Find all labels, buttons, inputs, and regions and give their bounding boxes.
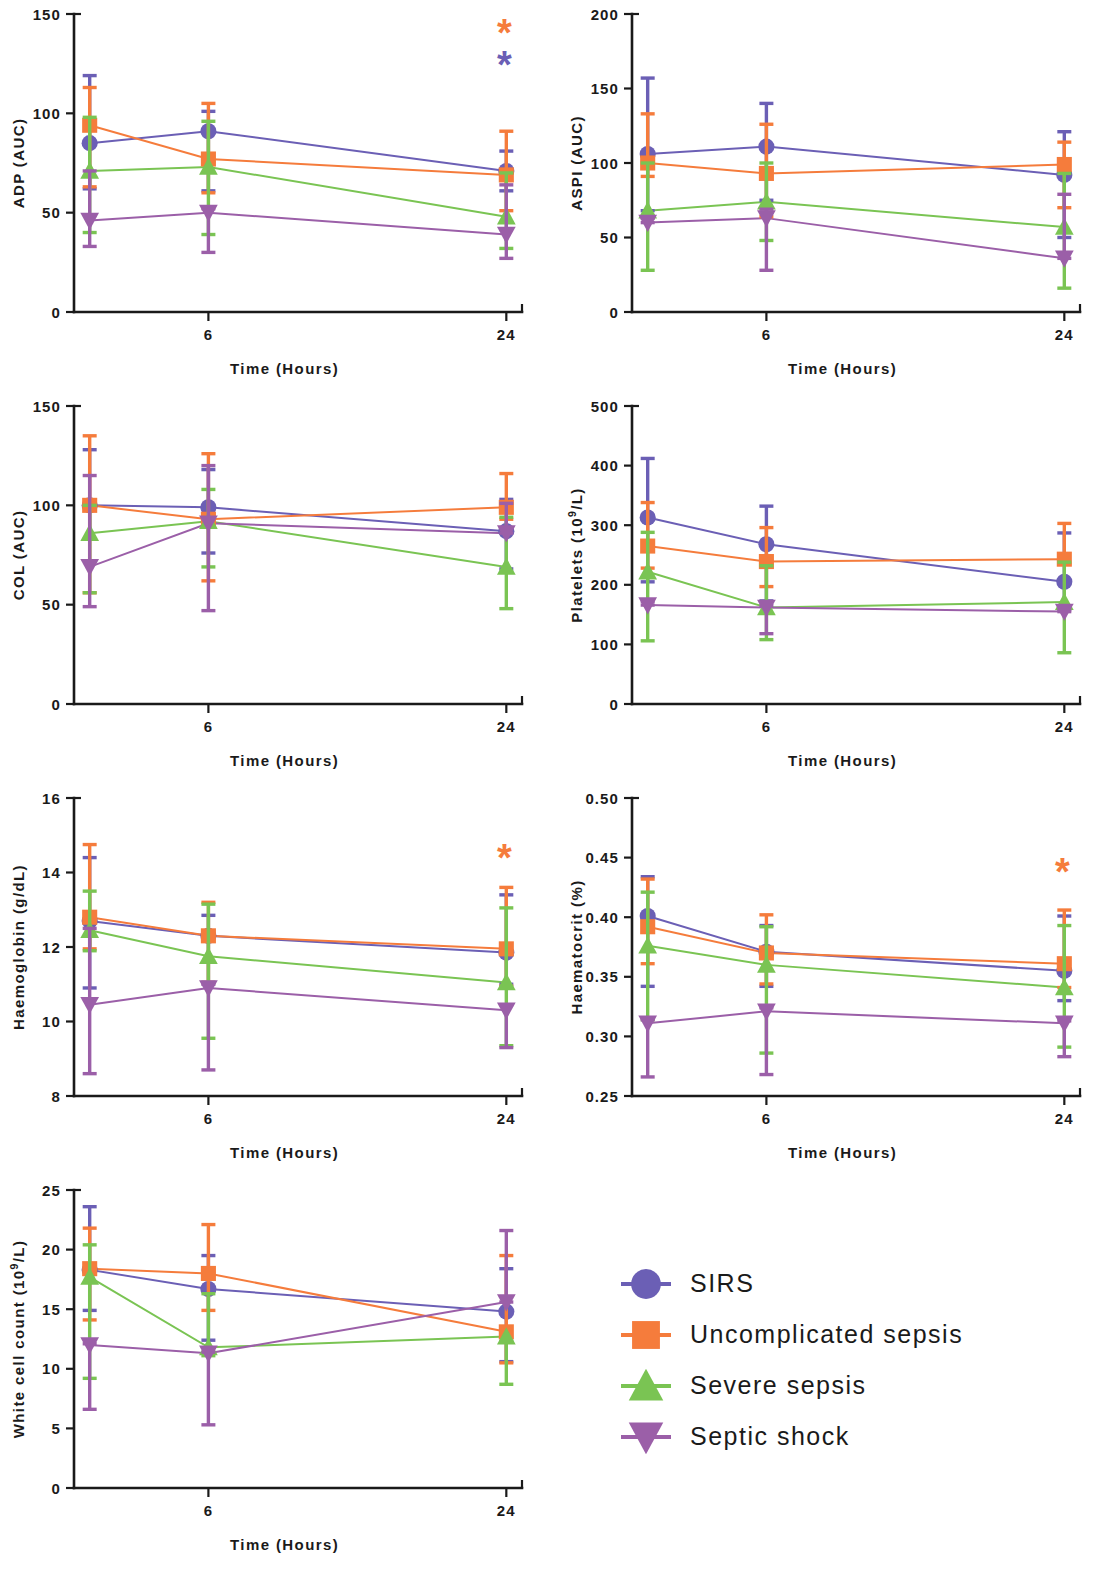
errorbar-marker-group xyxy=(199,466,218,611)
y-tick-label: 200 xyxy=(591,6,619,23)
y-axis-title: ASPI (AUC) xyxy=(568,115,585,211)
y-tick-label: 0 xyxy=(610,696,619,713)
series-line-sirs xyxy=(90,921,507,953)
x-tick-label: 6 xyxy=(204,718,213,735)
y-tick-label: 150 xyxy=(33,6,61,23)
significance-asterisk: * xyxy=(497,44,512,86)
series-line-severe-sepsis xyxy=(648,202,1065,227)
errorbar-marker-group xyxy=(1055,1015,1074,1056)
x-tick-label: 6 xyxy=(204,326,213,343)
y-tick-label: 10 xyxy=(42,1013,61,1030)
x-axis-title: Time (Hours) xyxy=(788,360,897,377)
x-tick-label: 24 xyxy=(1055,326,1074,343)
y-tick-label: 0.50 xyxy=(585,790,619,807)
series-line-uncomplicated-sepsis xyxy=(648,546,1065,561)
x-tick-label: 24 xyxy=(497,718,516,735)
chart-legend: SIRSUncomplicated sepsisSevere sepsisSep… xyxy=(618,1258,1058,1462)
y-tick-label: 150 xyxy=(591,80,619,97)
y-tick-label: 100 xyxy=(591,636,619,653)
errorbar-marker-group xyxy=(638,892,657,1020)
x-tick-label: 6 xyxy=(762,718,771,735)
y-tick-label: 300 xyxy=(591,517,619,534)
x-axis-title: Time (Hours) xyxy=(230,1536,339,1553)
y-tick-label: 100 xyxy=(33,497,61,514)
significance-asterisk: * xyxy=(497,837,512,879)
y-axis-title: Haemoglobin (g/dL) xyxy=(10,864,27,1030)
x-tick-label: 24 xyxy=(1055,1110,1074,1127)
series-line-uncomplicated-sepsis xyxy=(90,1269,507,1332)
y-tick-label: 500 xyxy=(591,398,619,415)
errorbar-marker-group xyxy=(497,1231,516,1312)
legend-item-label: Septic shock xyxy=(690,1422,850,1451)
x-tick-label: 24 xyxy=(497,1110,516,1127)
x-axis-title: Time (Hours) xyxy=(230,1144,339,1161)
series-line-septic-shock xyxy=(90,988,507,1010)
y-tick-label: 5 xyxy=(52,1420,61,1437)
errorbar-marker-group xyxy=(199,980,218,1070)
y-tick-label: 0.45 xyxy=(585,849,619,866)
series-line-septic-shock xyxy=(90,523,507,567)
legend-item-label: Uncomplicated sepsis xyxy=(690,1320,963,1349)
y-tick-label: 16 xyxy=(42,790,61,807)
x-axis-title: Time (Hours) xyxy=(230,752,339,769)
y-axis-title: COL (AUC) xyxy=(10,510,27,601)
errorbar-marker-group xyxy=(757,600,776,634)
legend-marker-icon xyxy=(618,1369,674,1403)
series-line-sirs xyxy=(648,916,1065,971)
y-tick-label: 100 xyxy=(33,105,61,122)
errorbar-marker-group xyxy=(199,1346,218,1425)
y-tick-label: 8 xyxy=(52,1088,61,1105)
chart-panel-aspi: 050100150200624Time (Hours)ASPI (AUC) xyxy=(558,0,1116,392)
y-tick-label: 10 xyxy=(42,1360,61,1377)
errorbar-marker-group xyxy=(199,205,218,253)
x-axis-title: Time (Hours) xyxy=(788,1144,897,1161)
series-line-sirs xyxy=(90,131,507,171)
legend-marker-icon xyxy=(618,1318,674,1352)
x-axis-title: Time (Hours) xyxy=(788,752,897,769)
errorbar-marker-group xyxy=(638,597,657,614)
x-tick-label: 6 xyxy=(204,1502,213,1519)
y-tick-label: 0 xyxy=(52,1480,61,1497)
x-tick-label: 24 xyxy=(497,326,516,343)
y-axis-title: ADP (AUC) xyxy=(10,118,27,209)
x-tick-label: 6 xyxy=(762,326,771,343)
y-tick-label: 0 xyxy=(52,304,61,321)
series-line-septic-shock xyxy=(648,218,1065,258)
x-tick-label: 6 xyxy=(762,1110,771,1127)
legend-item-sirs: SIRS xyxy=(618,1258,1058,1309)
legend-marker-icon xyxy=(618,1420,674,1454)
y-tick-label: 50 xyxy=(42,596,61,613)
x-axis-title: Time (Hours) xyxy=(230,360,339,377)
errorbar-marker-group xyxy=(80,476,99,607)
legend-item-severe-sepsis: Severe sepsis xyxy=(618,1360,1058,1411)
series-line-septic-shock xyxy=(90,213,507,235)
y-tick-label: 14 xyxy=(42,864,61,881)
errorbar-marker-group xyxy=(638,1015,657,1076)
errorbar-marker-group xyxy=(80,171,99,246)
y-tick-label: 25 xyxy=(42,1182,61,1199)
y-tick-label: 200 xyxy=(591,576,619,593)
significance-asterisk: * xyxy=(1055,851,1070,893)
y-tick-label: 50 xyxy=(42,204,61,221)
y-axis-title: Haematocrit (%) xyxy=(568,879,585,1014)
series-line-severe-sepsis xyxy=(648,572,1065,608)
y-tick-label: 100 xyxy=(591,155,619,172)
series-line-uncomplicated-sepsis xyxy=(90,125,507,175)
legend-item-label: Severe sepsis xyxy=(690,1371,867,1400)
y-axis-title: White cell count (109/L) xyxy=(8,1240,27,1439)
legend-item-septic-shock: Septic shock xyxy=(618,1411,1058,1462)
x-tick-label: 24 xyxy=(497,1502,516,1519)
chart-panel-haematocrit: 0.250.300.350.400.450.50624Time (Hours)H… xyxy=(558,784,1116,1176)
x-tick-label: 24 xyxy=(1055,718,1074,735)
y-tick-label: 50 xyxy=(600,229,619,246)
chart-panel-wcc: 0510152025624Time (Hours)White cell coun… xyxy=(0,1176,558,1568)
series-line-severe-sepsis xyxy=(90,167,507,217)
series-line-uncomplicated-sepsis xyxy=(90,505,507,519)
errorbar-marker-group xyxy=(1057,523,1072,566)
y-axis-title: Platelets (109/L) xyxy=(566,487,585,623)
errorbar-marker-group xyxy=(757,1004,776,1075)
legend-item-uncomplicated-sepsis: Uncomplicated sepsis xyxy=(618,1309,1058,1360)
y-tick-label: 0 xyxy=(52,696,61,713)
errorbar-marker-group xyxy=(638,215,657,232)
errorbar-marker-group xyxy=(1055,604,1074,621)
